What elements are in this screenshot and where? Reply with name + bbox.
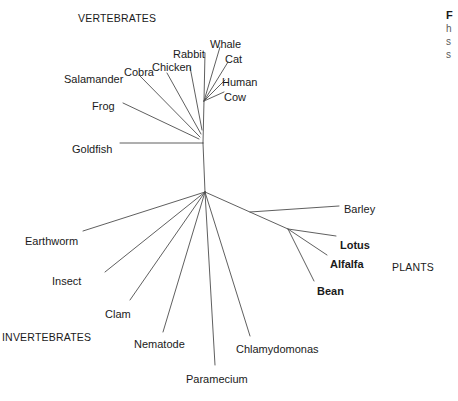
tip-label-clam: Clam	[105, 308, 131, 320]
branch-rabbit	[204, 53, 205, 101]
tip-label-chicken: Chicken	[152, 61, 192, 73]
branch-salamander	[140, 76, 200, 137]
tip-label-cow: Cow	[224, 91, 246, 103]
branch-barley	[250, 206, 339, 212]
branch-alfalfa	[288, 229, 327, 255]
branch-root-to-vertebrate	[203, 143, 205, 192]
tip-label-nematode: Nematode	[134, 338, 185, 350]
branch-nematode	[163, 192, 205, 332]
tip-label-paramecium: Paramecium	[186, 373, 248, 385]
group-label-invertebrates: INVERTEBRATES	[2, 331, 91, 343]
caption-line-2: h	[446, 22, 458, 35]
tip-label-whale: Whale	[210, 38, 241, 50]
tip-label-cobra: Cobra	[124, 66, 154, 78]
branch-bean	[288, 229, 314, 281]
tip-label-frog: Frog	[92, 100, 115, 112]
branch-cobra	[167, 73, 201, 134]
branch-lotus	[288, 229, 336, 236]
branch-earthworm	[83, 192, 205, 231]
tip-label-goldfish: Goldfish	[72, 143, 112, 155]
branch-vertebrate-to-mammal	[203, 101, 204, 143]
tip-label-earthworm: Earthworm	[25, 235, 78, 247]
figure-caption: F h s s	[446, 9, 458, 61]
tip-label-rabbit: Rabbit	[173, 48, 205, 60]
tip-label-alfalfa: Alfalfa	[330, 258, 364, 270]
branch-frog	[123, 103, 199, 139]
branch-insect	[105, 192, 205, 272]
tip-label-lotus: Lotus	[340, 239, 370, 251]
tip-label-insect: Insect	[52, 275, 81, 287]
caption-title: F	[446, 9, 458, 22]
caption-line-4: s	[446, 48, 458, 61]
tip-label-cat: Cat	[225, 53, 242, 65]
branch-clam	[130, 192, 205, 300]
caption-line-3: s	[446, 35, 458, 48]
group-label-vertebrates: VERTEBRATES	[78, 12, 156, 24]
phylogenetic-tree-figure: WhaleRabbitCatChickenCobraHumanSalamande…	[0, 0, 458, 401]
tip-label-bean: Bean	[317, 285, 344, 297]
tip-label-human: Human	[222, 76, 257, 88]
tip-label-salamander: Salamander	[64, 73, 123, 85]
group-label-plants: PLANTS	[392, 261, 434, 273]
tip-label-barley: Barley	[344, 203, 375, 215]
tip-label-chlamydomonas: Chlamydomonas	[236, 343, 319, 355]
branch-chicken	[190, 67, 202, 130]
